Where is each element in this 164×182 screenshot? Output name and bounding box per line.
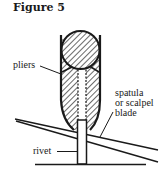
spatula-label-line3: blade xyxy=(115,108,154,118)
rivet-head xyxy=(62,31,100,69)
rivet-shaft xyxy=(78,120,87,164)
pliers-leader xyxy=(40,66,61,74)
spatula-label: spatula or scalpel blade xyxy=(115,88,154,118)
spatula-leader xyxy=(100,112,113,137)
pliers-label: pliers xyxy=(13,60,35,70)
rivet-label: rivet xyxy=(33,146,51,156)
